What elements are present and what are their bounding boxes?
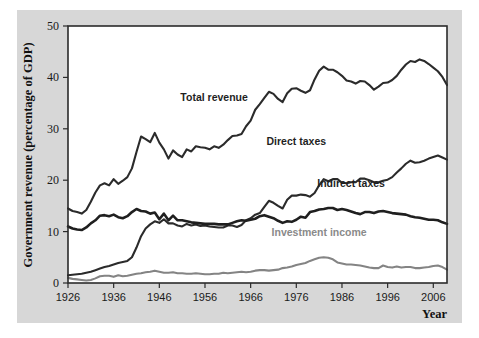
y-tick-label: 50 [47, 19, 59, 33]
y-tick-label: 0 [53, 276, 59, 290]
y-tick-label: 20 [47, 173, 59, 187]
plot-area-background [68, 26, 447, 283]
x-axis-ticks: 192619361946195619661976198619962006 [56, 283, 446, 303]
x-tick-label: 1926 [56, 291, 80, 303]
x-axis-title: Year [422, 307, 447, 321]
x-tick-label: 1966 [238, 291, 262, 303]
y-tick-label: 30 [47, 122, 59, 136]
y-tick-label: 10 [47, 225, 59, 239]
y-tick-label: 40 [47, 70, 59, 84]
series-label-total-revenue: Total revenue [180, 91, 248, 103]
y-axis-title: Government revenue (percentage of GDP) [21, 42, 35, 267]
x-tick-label: 2006 [421, 291, 445, 303]
y-axis-ticks: 01020304050 [47, 19, 68, 290]
series-label-investment-income: Investment income [272, 226, 367, 238]
x-tick-label: 1946 [147, 291, 171, 303]
line-chart: 01020304050 1926193619461956196619761986… [0, 0, 479, 338]
figure-container: 01020304050 1926193619461956196619761986… [0, 0, 479, 338]
x-tick-label: 1936 [101, 291, 125, 303]
x-tick-label: 1986 [330, 291, 354, 303]
x-tick-label: 1956 [193, 291, 217, 303]
x-tick-label: 1996 [375, 291, 399, 303]
series-label-direct-taxes: Direct taxes [267, 135, 327, 147]
series-label-indirect-taxes: Indirect taxes [317, 177, 385, 189]
x-tick-label: 1976 [284, 291, 308, 303]
